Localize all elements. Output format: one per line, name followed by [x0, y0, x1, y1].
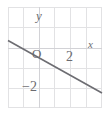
- x-tick-label-2: 2: [66, 50, 73, 64]
- y-tick-label-minus-2: −2: [22, 80, 37, 94]
- y-axis-label: y: [36, 9, 42, 22]
- x-axis-label: x: [88, 39, 93, 50]
- coordinate-plane: [0, 0, 110, 115]
- graph-screenshot: y x O 2 −2: [0, 0, 110, 115]
- graph-svg: [0, 0, 110, 115]
- origin-label: O: [32, 47, 41, 60]
